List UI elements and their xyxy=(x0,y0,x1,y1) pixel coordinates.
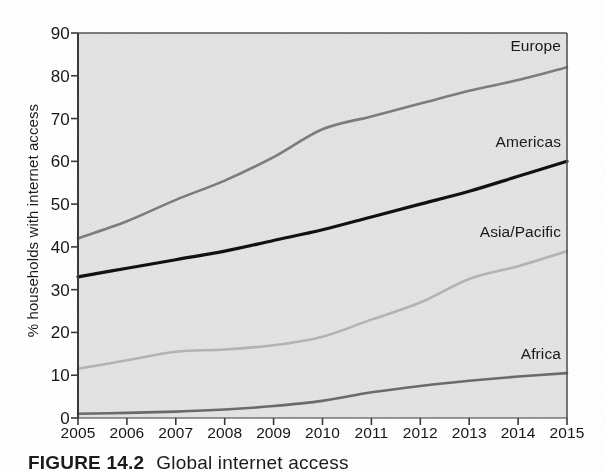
series-label-africa: Africa xyxy=(521,345,561,363)
x-tick-label: 2009 xyxy=(256,424,291,442)
x-tick-label: 2010 xyxy=(305,424,340,442)
x-tick-label: 2012 xyxy=(403,424,438,442)
x-tick-label: 2005 xyxy=(61,424,96,442)
figure-caption-number: FIGURE 14.2 xyxy=(28,452,144,473)
x-tick-label: 2011 xyxy=(355,424,389,442)
series-label-asia-pacific: Asia/Pacific xyxy=(480,223,561,241)
x-tick-label: 2006 xyxy=(109,424,144,442)
x-tick-label: 2015 xyxy=(550,424,585,442)
x-tick-label: 2013 xyxy=(452,424,487,442)
x-tick-label: 2014 xyxy=(501,424,536,442)
figure-caption-text: Global internet access xyxy=(156,452,348,473)
x-tick-label: 2008 xyxy=(207,424,242,442)
series-label-americas: Americas xyxy=(496,133,561,151)
x-tick-label: 2007 xyxy=(158,424,193,442)
series-label-europe: Europe xyxy=(510,37,561,55)
figure-container: % households with internet access 010203… xyxy=(0,0,605,473)
figure-caption: FIGURE 14.2Global internet access xyxy=(28,452,349,473)
